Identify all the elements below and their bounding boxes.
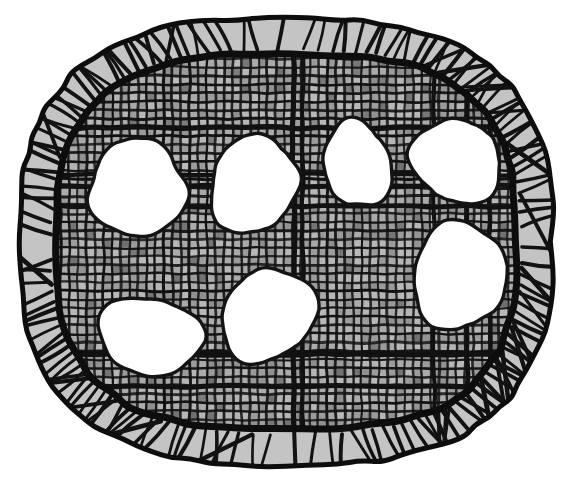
figure-root: Hand-drawn cross-hatched oval with seven… (0, 0, 573, 484)
engraving-illustration (0, 0, 573, 484)
